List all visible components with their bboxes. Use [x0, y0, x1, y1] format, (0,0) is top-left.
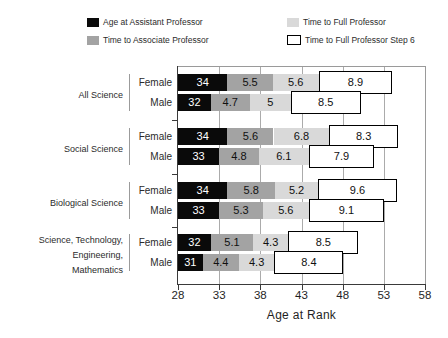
bar-value-label: 9.6	[350, 185, 365, 196]
bar-value-label: 6.8	[294, 131, 309, 142]
bar-segment-to-associate: 4.7	[211, 94, 250, 111]
bar-segment-age-assistant: 32	[178, 234, 211, 251]
bar-value-label: 4.4	[213, 257, 228, 268]
bar-value-label: 9.1	[339, 205, 354, 216]
bar-segment-age-assistant: 34	[178, 74, 227, 91]
bar-value-label: 31	[184, 257, 196, 268]
bar-value-label: 4.7	[223, 97, 238, 108]
bar-segment-age-assistant: 34	[178, 182, 227, 199]
chart-figure: Age at Rank 28333843485358345.55.68.9Fem…	[0, 0, 448, 338]
bar-segment-to-full: 4.3	[253, 234, 288, 251]
legend-item: Time to Associate Professor	[87, 34, 209, 46]
bar-segment-to-associate: 4.4	[203, 254, 239, 271]
bar-value-label: 8.4	[301, 257, 316, 268]
gridline	[384, 66, 385, 284]
bar-segment-to-associate: 5.1	[211, 234, 253, 251]
bar-segment-to-full: 5.2	[275, 182, 318, 199]
bar-segment-to-associate: 4.8	[219, 148, 259, 165]
bar-value-label: 5.6	[278, 205, 293, 216]
bar-value-label: 6.1	[276, 151, 291, 162]
x-tick-label: 38	[245, 289, 275, 303]
bar-value-label: 5.1	[224, 237, 239, 248]
x-tick-label: 43	[287, 289, 317, 303]
legend-item: Time to Full Professor	[287, 16, 386, 28]
bar-segment-to-full: 5	[250, 94, 291, 111]
plot-frame-top	[178, 66, 425, 67]
bar-segment-age-assistant: 33	[178, 202, 219, 219]
bar-value-label: 8.3	[356, 131, 371, 142]
bar-segment-age-assistant: 34	[178, 128, 227, 145]
bar-value-label: 8.5	[316, 237, 331, 248]
bar-value-label: 8.9	[348, 77, 363, 88]
bar-segment-to-full: 6.1	[259, 148, 309, 165]
bar-value-label: 5.2	[289, 185, 304, 196]
bar-segment-to-associate: 5.8	[227, 182, 275, 199]
bar-value-label: 4.3	[249, 257, 264, 268]
group-bracket	[129, 128, 130, 165]
bar-segment-to-full: 5.6	[273, 74, 319, 91]
legend-swatch-black-square	[87, 18, 99, 27]
legend-label: Time to Full Professor Step 6	[305, 35, 415, 45]
bar-segment-age-assistant: 31	[178, 254, 203, 271]
bar-value-label: 5	[267, 97, 273, 108]
bar-segment-to-associate: 5.6	[227, 128, 273, 145]
x-tick-label: 53	[369, 289, 399, 303]
group-label: All Science	[0, 88, 123, 103]
bar-segment-step6-box: 8.4	[274, 251, 343, 274]
bar-value-label: 5.3	[233, 205, 248, 216]
bar-segment-to-full: 6.8	[274, 128, 330, 145]
bar-value-label: 5.8	[244, 185, 259, 196]
bar-value-label: 4.8	[231, 151, 246, 162]
group-label: Engineering,	[0, 248, 123, 263]
group-label: Science, Technology,	[0, 233, 123, 248]
bar-value-label: 4.3	[263, 237, 278, 248]
legend-item: Age at Assistant Professor	[87, 16, 203, 28]
x-axis-line	[177, 284, 426, 285]
bar-value-label: 32	[188, 237, 200, 248]
group-label: Social Science	[0, 142, 123, 157]
bar-value-label: 5.6	[288, 77, 303, 88]
bar-value-label: 32	[188, 97, 200, 108]
legend-label: Time to Full Professor	[303, 17, 386, 27]
legend-swatch-lightgray-square	[287, 18, 299, 27]
bar-value-label: 33	[192, 205, 204, 216]
bar-value-label: 7.9	[334, 151, 349, 162]
bar-segment-step6-box: 9.1	[309, 199, 384, 222]
legend-label: Time to Associate Professor	[103, 35, 209, 45]
bar-segment-to-full: 4.3	[239, 254, 274, 271]
bar-value-label: 34	[197, 131, 209, 142]
group-bracket	[129, 234, 130, 271]
bar-segment-step6-box: 7.9	[309, 145, 374, 168]
x-tick-label: 58	[410, 289, 440, 303]
group-label: Biological Science	[0, 196, 123, 211]
x-tick-label: 33	[204, 289, 234, 303]
legend-label: Age at Assistant Professor	[103, 17, 203, 27]
legend-item: Time to Full Professor Step 6	[287, 34, 415, 46]
bar-segment-age-assistant: 32	[178, 94, 211, 111]
plot-frame-right	[425, 66, 426, 284]
bar-value-label: 34	[197, 77, 209, 88]
bar-segment-to-associate: 5.5	[227, 74, 272, 91]
bar-segment-age-assistant: 33	[178, 148, 219, 165]
legend-swatch-white-outlined-square	[287, 35, 301, 45]
group-label: Mathematics	[0, 263, 123, 278]
bar-value-label: 33	[192, 151, 204, 162]
bar-value-label: 5.5	[242, 77, 257, 88]
legend-swatch-gray-square	[87, 36, 99, 45]
bar-segment-to-full: 5.6	[263, 202, 309, 219]
bar-value-label: 34	[197, 185, 209, 196]
bar-segment-step6-box: 8.5	[291, 91, 361, 114]
x-tick-label: 28	[163, 289, 193, 303]
group-bracket	[129, 182, 130, 219]
x-tick-label: 48	[328, 289, 358, 303]
bar-segment-to-associate: 5.3	[219, 202, 263, 219]
group-bracket	[129, 74, 130, 111]
bar-value-label: 5.6	[243, 131, 258, 142]
x-axis-title: Age at Rank	[178, 308, 425, 324]
bar-value-label: 8.5	[318, 97, 333, 108]
